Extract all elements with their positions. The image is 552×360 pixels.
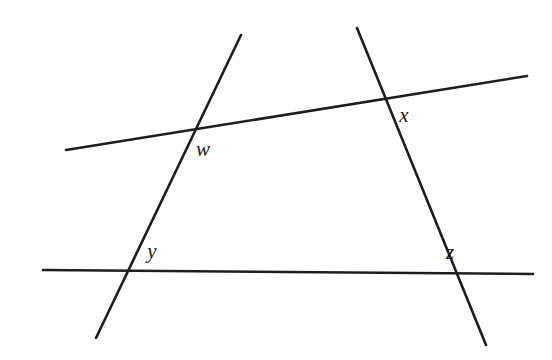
line-left-steep <box>96 35 241 338</box>
line-horizontal-baseline <box>43 270 533 274</box>
geometry-figure: w x y z <box>0 0 552 360</box>
intersection-label-z: z <box>445 240 454 264</box>
geometry-diagram-canvas: w x y z <box>0 0 552 360</box>
intersection-label-w: w <box>196 137 210 161</box>
line-upper-transversal <box>66 76 527 150</box>
intersection-label-y: y <box>145 239 157 263</box>
line-right-steep <box>357 28 486 345</box>
intersection-label-x: x <box>398 103 409 127</box>
